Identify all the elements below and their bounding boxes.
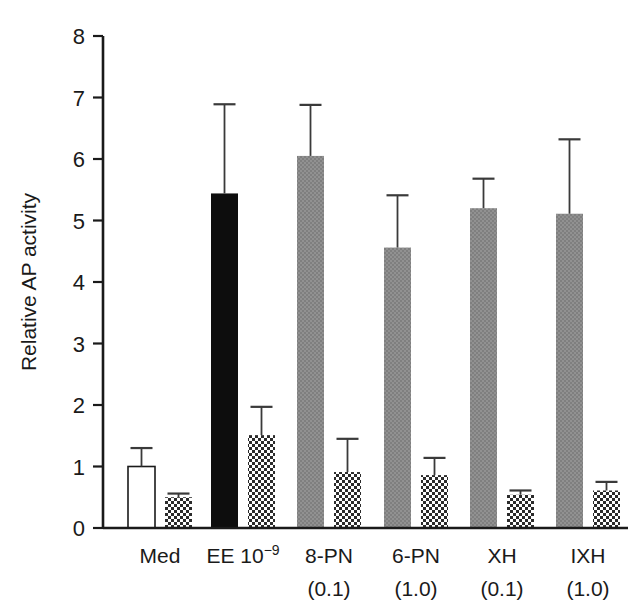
bars-group <box>128 156 620 528</box>
axes-group <box>103 36 628 528</box>
x-label-5: XH <box>487 544 516 567</box>
y-tick-label-8: 8 <box>73 24 85 49</box>
bar-2-4 <box>421 475 448 528</box>
bar-2-6 <box>593 490 620 528</box>
chart-canvas: 012345678 MedEE 10−98-PN(0.1)6-PN(1.0)XH… <box>0 0 644 610</box>
y-tick-label-2: 2 <box>73 393 85 418</box>
bar-2-5 <box>507 495 534 528</box>
y-axis-title: Relative AP activity <box>17 192 40 371</box>
x-label-6: IXH <box>570 544 605 567</box>
error-bars-group <box>131 104 618 497</box>
x-label-2: EE 10−9 <box>206 542 279 567</box>
y-tick-label-1: 1 <box>73 455 85 480</box>
y-tick-label-5: 5 <box>73 209 85 234</box>
x-category-labels-group: MedEE 10−98-PN(0.1)6-PN(1.0)XH(0.1)IXH(1… <box>140 542 610 600</box>
x-sublabel-3: (0.1) <box>307 577 350 600</box>
y-tick-labels-group: 012345678 <box>73 24 103 541</box>
y-tick-label-6: 6 <box>73 147 85 172</box>
x-label-3: 8-PN <box>305 544 353 567</box>
bar-1-6 <box>556 214 583 528</box>
x-sublabel-6: (1.0) <box>566 577 609 600</box>
bar-2-3 <box>334 472 361 528</box>
y-tick-label-7: 7 <box>73 86 85 111</box>
bar-2-2 <box>248 435 275 528</box>
y-tick-label-0: 0 <box>73 516 85 541</box>
bar-1-2 <box>211 193 238 528</box>
x-label-4: 6-PN <box>392 544 440 567</box>
bar-1-5 <box>470 208 497 528</box>
bar-1-1 <box>128 467 155 529</box>
bar-2-1 <box>165 497 192 528</box>
x-sublabel-4: (1.0) <box>394 577 437 600</box>
y-tick-label-4: 4 <box>73 270 85 295</box>
bar-1-3 <box>297 156 324 528</box>
x-sublabel-5: (0.1) <box>480 577 523 600</box>
x-label-1: Med <box>140 544 181 567</box>
bar-1-4 <box>384 248 411 528</box>
y-tick-label-3: 3 <box>73 332 85 357</box>
figure-bar-chart: 012345678 MedEE 10−98-PN(0.1)6-PN(1.0)XH… <box>0 0 644 610</box>
